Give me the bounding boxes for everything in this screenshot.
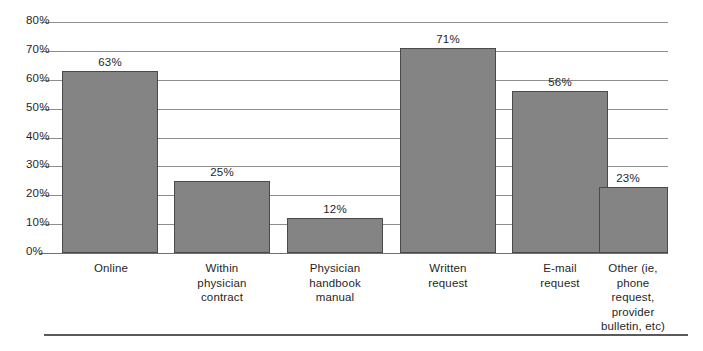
gridline-80 (40, 22, 668, 23)
bar-value-written-request: 71% (400, 33, 496, 46)
category-label-physician-handbook-manual: Physician handbook manual (280, 261, 390, 305)
ytick-label-50: 50% (26, 101, 66, 113)
bar-other (599, 187, 668, 253)
ytick-label-40: 40% (26, 130, 66, 142)
category-label-written-request: Written request (393, 261, 503, 290)
ytick-label-60: 60% (26, 72, 66, 84)
bar-chart: 80% 70% 60% 50% 40% 30% 20% 10% 0% 63% 2… (0, 0, 703, 351)
ytick-label-30: 30% (26, 158, 66, 170)
bar-online (62, 71, 158, 253)
ytick-label-10: 10% (26, 216, 66, 228)
bar-value-physician-handbook-manual: 12% (287, 203, 383, 216)
ytick-label-20: 20% (26, 187, 66, 199)
category-label-within-physician-contract: Within physician contract (167, 261, 277, 305)
bar-value-within-physician-contract: 25% (174, 166, 270, 179)
gridline-70 (40, 51, 668, 52)
category-label-online: Online (56, 261, 166, 276)
bar-written-request (400, 48, 496, 253)
bar-value-online: 63% (62, 56, 158, 69)
bar-value-e-mail-request: 56% (512, 76, 608, 89)
ytick-label-70: 70% (26, 43, 66, 55)
ytick-label-0: 0% (26, 245, 66, 257)
bar-within-physician-contract (174, 181, 270, 253)
ytick-label-80: 80% (26, 14, 66, 26)
bottom-divider-rule (44, 334, 688, 336)
bar-physician-handbook-manual (287, 218, 383, 253)
bar-value-other: 23% (580, 172, 676, 185)
category-label-other: Other (ie, phone request, provider bulle… (578, 261, 688, 334)
axis-baseline-0 (40, 253, 668, 254)
